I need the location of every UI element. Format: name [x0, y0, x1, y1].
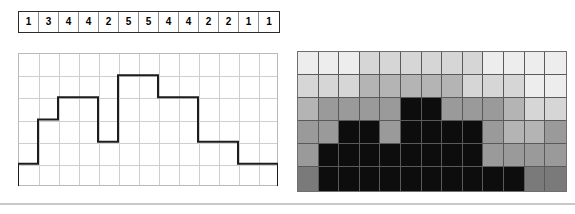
step-chart-line — [18, 53, 278, 186]
heatmap-cell — [525, 144, 546, 167]
heatmap-cell — [339, 98, 360, 121]
heatmap-cell — [380, 98, 401, 121]
heatmap-grid — [297, 51, 567, 192]
heatmap-cell — [463, 75, 484, 98]
heatmap-cell — [319, 167, 340, 190]
heatmap-cell — [401, 167, 422, 190]
value-strip: 1344255442211 — [18, 11, 280, 33]
heatmap-cell — [298, 167, 319, 190]
heatmap-panel — [297, 51, 565, 190]
heatmap-cell — [380, 52, 401, 75]
heatmap-cell — [319, 144, 340, 167]
heatmap-cell — [339, 144, 360, 167]
value-cell: 5 — [119, 12, 139, 32]
heatmap-cell — [401, 52, 422, 75]
heatmap-cell — [401, 98, 422, 121]
heatmap-cell — [380, 121, 401, 144]
heatmap-cell — [545, 98, 566, 121]
heatmap-cell — [360, 52, 381, 75]
heatmap-cell — [463, 167, 484, 190]
heatmap-cell — [360, 144, 381, 167]
heatmap-cell — [319, 98, 340, 121]
heatmap-cell — [380, 167, 401, 190]
heatmap-cell — [483, 75, 504, 98]
value-cell: 1 — [259, 12, 279, 32]
heatmap-cell — [319, 52, 340, 75]
heatmap-cell — [504, 121, 525, 144]
heatmap-cell — [298, 52, 319, 75]
heatmap-cell — [545, 121, 566, 144]
heatmap-cell — [422, 144, 443, 167]
step-chart-path — [18, 75, 278, 186]
heatmap-cell — [422, 52, 443, 75]
heatmap-cell — [483, 121, 504, 144]
heatmap-cell — [422, 121, 443, 144]
heatmap-cell — [380, 75, 401, 98]
heatmap-cell — [298, 121, 319, 144]
heatmap-cell — [360, 75, 381, 98]
heatmap-cell — [463, 144, 484, 167]
heatmap-cell — [525, 121, 546, 144]
heatmap-cell — [401, 121, 422, 144]
value-cell: 2 — [219, 12, 239, 32]
value-cell: 3 — [39, 12, 59, 32]
heatmap-cell — [525, 167, 546, 190]
heatmap-cell — [422, 167, 443, 190]
heatmap-cell — [339, 167, 360, 190]
heatmap-cell — [360, 98, 381, 121]
heatmap-cell — [545, 75, 566, 98]
value-cell: 1 — [239, 12, 259, 32]
value-cell: 4 — [59, 12, 79, 32]
heatmap-cell — [504, 144, 525, 167]
heatmap-cell — [483, 144, 504, 167]
heatmap-cell — [339, 75, 360, 98]
heatmap-cell — [545, 52, 566, 75]
heatmap-cell — [545, 167, 566, 190]
heatmap-cell — [525, 52, 546, 75]
heatmap-cell — [339, 52, 360, 75]
heatmap-cell — [463, 121, 484, 144]
heatmap-cell — [483, 167, 504, 190]
heatmap-cell — [422, 98, 443, 121]
value-cell: 2 — [199, 12, 219, 32]
heatmap-cell — [442, 98, 463, 121]
heatmap-cell — [483, 52, 504, 75]
value-cell: 4 — [79, 12, 99, 32]
heatmap-cell — [298, 144, 319, 167]
heatmap-cell — [504, 75, 525, 98]
heatmap-cell — [401, 144, 422, 167]
heatmap-cell — [380, 144, 401, 167]
step-chart-panel — [18, 53, 278, 186]
heatmap-cell — [463, 52, 484, 75]
heatmap-cell — [298, 75, 319, 98]
heatmap-cell — [319, 121, 340, 144]
value-cell: 4 — [179, 12, 199, 32]
heatmap-cell — [360, 121, 381, 144]
heatmap-cell — [525, 98, 546, 121]
heatmap-cell — [442, 144, 463, 167]
heatmap-cell — [525, 75, 546, 98]
heatmap-cell — [545, 144, 566, 167]
heatmap-cell — [442, 121, 463, 144]
bottom-divider-rule — [0, 203, 575, 205]
heatmap-cell — [339, 121, 360, 144]
value-cell: 1 — [19, 12, 39, 32]
heatmap-cell — [401, 75, 422, 98]
heatmap-cell — [298, 98, 319, 121]
heatmap-cell — [442, 75, 463, 98]
heatmap-cell — [504, 167, 525, 190]
heatmap-cell — [422, 75, 443, 98]
heatmap-cell — [483, 98, 504, 121]
heatmap-cell — [319, 75, 340, 98]
heatmap-cell — [463, 98, 484, 121]
heatmap-cell — [504, 98, 525, 121]
figure-root: 1344255442211 — [0, 0, 575, 214]
value-cell: 5 — [139, 12, 159, 32]
heatmap-cell — [360, 167, 381, 190]
value-cell: 4 — [159, 12, 179, 32]
heatmap-cell — [442, 52, 463, 75]
heatmap-cell — [504, 52, 525, 75]
value-cell: 2 — [99, 12, 119, 32]
heatmap-cell — [442, 167, 463, 190]
